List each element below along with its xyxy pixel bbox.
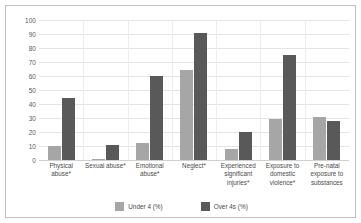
gridline [39, 160, 349, 161]
y-axis-tick-label: 0 [32, 157, 36, 164]
plot-area: 0102030405060708090100 [6, 6, 357, 178]
x-axis-category-label: Sexual abuse* [83, 162, 127, 204]
bar-group [305, 20, 349, 160]
bar [136, 143, 149, 160]
x-axis-category-label: Pre-natal exposure to substances [305, 162, 349, 204]
y-axis-tick-label: 50 [29, 87, 36, 94]
bar-group [260, 20, 304, 160]
bar [194, 33, 207, 160]
legend-item: Under 4 (%) [115, 202, 162, 211]
chart-card: 0102030405060708090100 Physical abuse*Se… [5, 5, 356, 218]
x-axis-category-label: Physical abuse* [39, 162, 83, 204]
bar-group [216, 20, 260, 160]
bar [150, 76, 163, 160]
y-axis-tick-label: 90 [29, 31, 36, 38]
bar-groups [39, 20, 349, 160]
chart-legend: Under 4 (%)Over 4s (%) [6, 202, 357, 211]
bar [269, 119, 282, 160]
bar [239, 132, 252, 160]
y-axis-tick-label: 70 [29, 59, 36, 66]
bar-group [83, 20, 127, 160]
y-axis-tick-label: 80 [29, 45, 36, 52]
x-axis-category-label: Exposure to domestic violence* [260, 162, 304, 204]
x-axis-category-label: Experienced significant injuries* [216, 162, 260, 204]
bar [225, 149, 238, 160]
bar-group [128, 20, 172, 160]
y-axis-tick-label: 60 [29, 73, 36, 80]
x-axis-labels: Physical abuse*Sexual abuse*Emotional ab… [39, 162, 349, 204]
x-axis-category-label: Neglect* [172, 162, 216, 204]
y-axis: 0102030405060708090100 [14, 20, 36, 160]
bar [313, 117, 326, 160]
bar [180, 70, 193, 160]
bar [106, 145, 119, 160]
y-axis-tick-label: 100 [25, 17, 36, 24]
legend-swatch [201, 202, 210, 211]
legend-label: Over 4s (%) [214, 203, 248, 210]
bar [48, 146, 61, 160]
y-axis-tick-label: 40 [29, 101, 36, 108]
x-axis-category-label: Emotional abuse* [128, 162, 172, 204]
bar [62, 98, 75, 160]
bar [283, 55, 296, 160]
bar [92, 159, 105, 160]
legend-swatch [115, 202, 124, 211]
y-axis-tick-label: 10 [29, 143, 36, 150]
legend-item: Over 4s (%) [201, 202, 248, 211]
bar-group [39, 20, 83, 160]
y-axis-tick-label: 20 [29, 129, 36, 136]
bar [327, 121, 340, 160]
y-axis-tick-label: 30 [29, 115, 36, 122]
legend-label: Under 4 (%) [128, 203, 162, 210]
bar-group [172, 20, 216, 160]
